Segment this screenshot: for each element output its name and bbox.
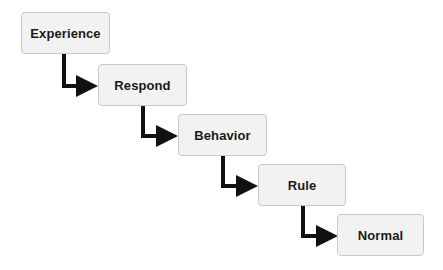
- arrowhead-icon: [156, 125, 178, 147]
- step-respond: Respond: [98, 64, 187, 106]
- connector-respond-behavior: [143, 106, 158, 136]
- staircase-diagram: Experience Respond Behavior Rule Normal: [0, 0, 443, 270]
- connector-experience-respond: [64, 54, 78, 86]
- step-label: Normal: [358, 228, 403, 243]
- step-label: Respond: [114, 78, 170, 93]
- arrowhead-icon: [316, 225, 338, 247]
- step-label: Experience: [30, 26, 100, 41]
- step-rule: Rule: [258, 164, 346, 206]
- connector-behavior-rule: [223, 156, 238, 186]
- arrowhead-icon: [76, 75, 98, 97]
- connector-rule-normal: [303, 206, 318, 236]
- step-behavior: Behavior: [178, 114, 267, 156]
- step-label: Rule: [288, 178, 317, 193]
- step-normal: Normal: [337, 214, 424, 256]
- step-label: Behavior: [194, 128, 250, 143]
- arrowhead-icon: [236, 175, 258, 197]
- step-experience: Experience: [21, 12, 110, 54]
